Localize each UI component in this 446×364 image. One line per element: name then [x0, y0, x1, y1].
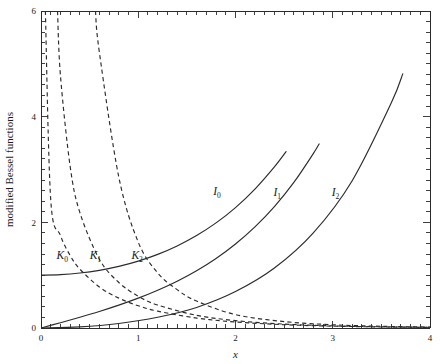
plot-svg: 012340246xmodified Bessel functionsI0I1I…	[0, 0, 446, 364]
x-tick-label: 4	[428, 333, 433, 343]
axis-frame-top-right	[41, 11, 430, 328]
x-tick-label: 3	[331, 333, 336, 343]
curve-label-i2: I2	[331, 186, 340, 201]
curve-label-k0: K0	[56, 249, 69, 264]
x-tick-label: 2	[233, 333, 238, 343]
x-tick-label: 1	[136, 333, 141, 343]
y-tick-label: 0	[32, 323, 37, 333]
curve-i0	[41, 152, 286, 276]
curve-k2	[95, 11, 430, 327]
curve-label-k1: K1	[89, 249, 102, 264]
curve-label-i1: I1	[272, 186, 281, 201]
curve-k0	[45, 11, 430, 327]
y-axis-title: modified Bessel functions	[3, 112, 15, 227]
x-tick-label: 0	[39, 333, 44, 343]
curve-k1	[58, 11, 430, 327]
curve-label-i0: I0	[212, 185, 221, 200]
bessel-function-chart: 012340246xmodified Bessel functionsI0I1I…	[0, 0, 446, 364]
curve-i2	[41, 74, 403, 328]
x-axis-title: x	[232, 348, 238, 360]
y-tick-label: 6	[32, 6, 37, 16]
y-tick-label: 2	[32, 218, 37, 228]
y-tick-label: 4	[32, 112, 37, 122]
curve-i1	[41, 144, 319, 328]
axis-frame-left-bottom	[41, 11, 430, 328]
